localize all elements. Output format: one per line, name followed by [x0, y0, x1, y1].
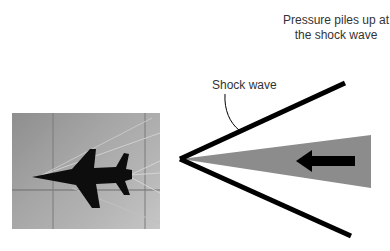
pressure-label: Pressure piles up at the shock wave	[282, 13, 390, 43]
shock-wave-label: Shock wave	[212, 78, 277, 93]
shock-wave-leader-line	[225, 94, 239, 130]
